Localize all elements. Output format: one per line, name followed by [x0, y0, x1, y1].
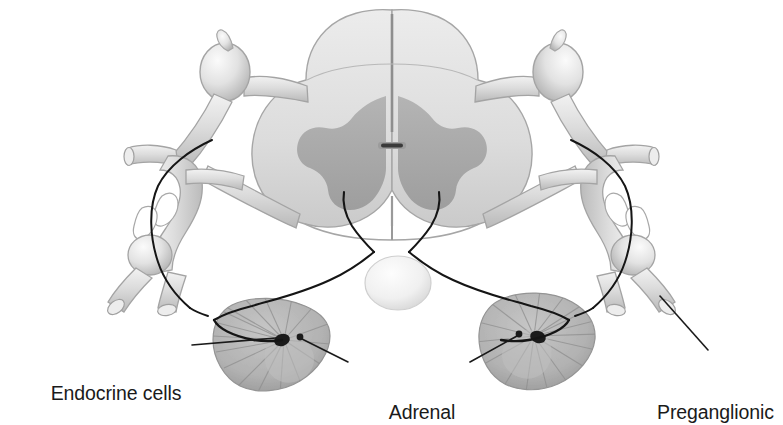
- adrenal-medullae-label-line1: Adrenal: [352, 401, 492, 424]
- preganglionic-fibers-label: Preganglionic fibers: [648, 355, 783, 425]
- endocrine-cells-label-line1: Endocrine cells: [0, 382, 232, 405]
- adrenal-medullae-label: Adrenal medullae: [352, 355, 492, 425]
- spinal-cord-cross-section: [252, 10, 532, 240]
- adrenal-medulla-right: [476, 290, 600, 392]
- aorta: [365, 256, 431, 310]
- endocrine-cells-label: Endocrine cells (specialized ganglionic …: [0, 336, 232, 425]
- dorsal-root-ganglion-right: [533, 43, 583, 101]
- leader-line-preganglionic: [660, 296, 708, 350]
- dorsal-root-ganglion-left: [200, 43, 250, 101]
- preganglionic-fibers-label-line1: Preganglionic: [648, 401, 783, 424]
- anatomy-figure: Endocrine cells (specialized ganglionic …: [0, 0, 783, 425]
